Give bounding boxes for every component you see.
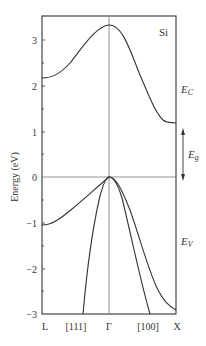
y-tick-0: 0 — [32, 172, 37, 183]
ec-label: EC — [180, 83, 194, 97]
material-label: Si — [159, 26, 168, 38]
ev-label: EV — [180, 235, 194, 249]
kpoint-100: [100] — [137, 321, 159, 332]
kpoint-gamma: Γ — [106, 321, 112, 332]
eg-label: Eg — [187, 148, 199, 162]
valence-band-100-outer — [109, 177, 176, 310]
kpoint-labels: L [111] Γ [100] X — [42, 321, 181, 332]
band-gap-arrow — [181, 128, 185, 181]
kpoint-L: L — [42, 321, 48, 332]
y-tick-3: 3 — [32, 35, 37, 46]
y-tick-minus-1: −1 — [26, 218, 37, 229]
y-tick-2: 2 — [32, 81, 37, 92]
y-tick-minus-3: −3 — [26, 309, 37, 320]
valence-band-heavy-111 — [83, 177, 109, 314]
y-tick-labels: 3 2 1 0 −1 −2 −3 — [26, 35, 37, 320]
kpoint-111: [111] — [66, 321, 87, 332]
band-structure-diagram: 3 2 1 0 −1 −2 −3 Energy (eV) L [111] Γ [… — [0, 0, 206, 346]
valence-band-100-inner — [109, 177, 150, 314]
kpoint-X: X — [173, 321, 181, 332]
y-tick-minus-2: −2 — [26, 264, 37, 275]
y-tick-1: 1 — [32, 127, 37, 138]
y-axis-title: Energy (eV) — [9, 152, 21, 202]
